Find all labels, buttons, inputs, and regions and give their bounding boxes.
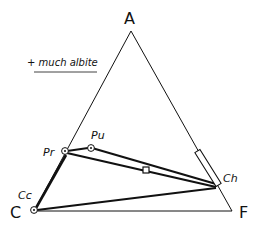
acf-diagram: A C F Pr Pu Cc Ch + much albite	[0, 0, 260, 232]
pu-point	[88, 145, 95, 152]
albite-note: + much albite	[27, 57, 98, 68]
vertex-a-label: A	[124, 9, 135, 28]
square-marker	[143, 167, 149, 173]
vertex-f-label: F	[239, 203, 248, 222]
phase-pr-label: Pr	[43, 146, 56, 159]
phase-pu-label: Pu	[91, 129, 105, 142]
pr-point	[62, 148, 69, 155]
phase-cc-label: Cc	[18, 189, 32, 202]
cc-point	[31, 207, 38, 214]
vertex-c-label: C	[10, 203, 21, 222]
phase-ch-label: Ch	[223, 172, 238, 185]
